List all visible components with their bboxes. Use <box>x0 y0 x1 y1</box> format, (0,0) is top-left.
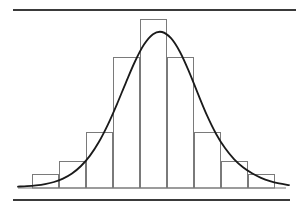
histogram-bar <box>222 162 248 189</box>
histogram-figure <box>0 0 302 217</box>
histogram-bar <box>195 133 221 189</box>
histogram-bar <box>168 58 194 189</box>
chart-canvas <box>0 0 302 217</box>
histogram-bar <box>114 58 140 189</box>
